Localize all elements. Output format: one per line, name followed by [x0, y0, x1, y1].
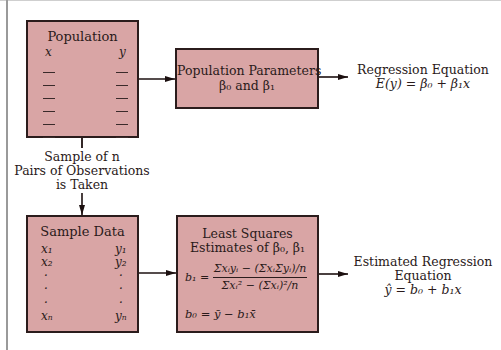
regression-equation-title: Regression Equation [348, 63, 498, 77]
sample-y-value: · [115, 270, 127, 283]
population-y-row [116, 72, 128, 73]
sample-y-value: y₂ [115, 256, 127, 269]
b1-formula: b₁ = Σxᵢyᵢ − (ΣxᵢΣyᵢ)/n Σxᵢ² − (Σxᵢ)²/n [185, 262, 307, 293]
population-parameters-subtitle: β₀ and β₁ [177, 79, 317, 93]
population-x-row [43, 85, 55, 86]
estimated-regression-title-line1: Estimated Regression [348, 255, 498, 269]
sample-x-value: x₁ [41, 243, 53, 256]
population-title: Population [28, 30, 137, 44]
sample-y-column: y₁ y₂ · · · yₙ [115, 243, 127, 323]
sampling-step-line2: Pairs of Observations [2, 164, 162, 178]
estimated-regression-formula: ŷ = b₀ + b₁x [348, 283, 498, 297]
estimated-regression-title-line2: Equation [348, 269, 498, 283]
sample-x-column: x₁ x₂ · · · xₙ [41, 243, 53, 323]
population-x-header: x [43, 46, 55, 60]
population-x-row [43, 72, 55, 73]
least-squares-title-line1: Least Squares [178, 227, 317, 241]
population-x-row [43, 98, 55, 99]
regression-equation-formula: E(y) = β₀ + β₁x [348, 77, 498, 91]
sample-x-value: · [41, 283, 53, 296]
sample-x-value: · [41, 270, 53, 283]
population-x-row [43, 111, 55, 112]
sample-y-value: y₁ [115, 243, 127, 256]
b1-denominator: Σxᵢ² − (Σxᵢ)²/n [213, 278, 308, 293]
b1-numerator: Σxᵢyᵢ − (ΣxᵢΣyᵢ)/n [213, 262, 308, 278]
least-squares-box: Least Squares Estimates of β₀, β₁ b₁ = Σ… [176, 215, 319, 333]
sample-y-value: · [115, 297, 127, 310]
least-squares-title-line2: Estimates of β₀, β₁ [178, 241, 317, 255]
sample-data-title: Sample Data [28, 225, 137, 239]
sample-y-value: yₙ [115, 310, 127, 323]
population-x-column: x [43, 46, 55, 138]
sample-x-value: x₂ [41, 256, 53, 269]
b1-lhs: b₁ = [185, 271, 209, 284]
population-y-row [116, 124, 128, 125]
population-box: Population x y [26, 20, 139, 138]
b0-formula: b₀ = ȳ − b₁x̄ [185, 307, 256, 321]
population-y-row [116, 98, 128, 99]
population-y-row [116, 85, 128, 86]
population-y-row [116, 111, 128, 112]
population-y-header: y [116, 46, 128, 60]
sample-x-value: · [41, 297, 53, 310]
population-parameters-title: Population Parameters [177, 64, 317, 78]
sample-y-value: · [115, 283, 127, 296]
population-x-row [43, 124, 55, 125]
b1-fraction: Σxᵢyᵢ − (ΣxᵢΣyᵢ)/n Σxᵢ² − (Σxᵢ)²/n [213, 262, 308, 293]
population-parameters-box: Population Parameters β₀ and β₁ [175, 48, 319, 109]
population-y-row [116, 137, 128, 138]
sampling-step-line1: Sample of n [2, 150, 162, 164]
sample-data-box: Sample Data x₁ x₂ · · · xₙ y₁ y₂ · · · y… [26, 215, 139, 333]
population-x-row [43, 137, 55, 138]
sampling-step-line3: is Taken [2, 178, 162, 192]
population-y-column: y [116, 46, 128, 138]
sample-x-value: xₙ [41, 310, 53, 323]
